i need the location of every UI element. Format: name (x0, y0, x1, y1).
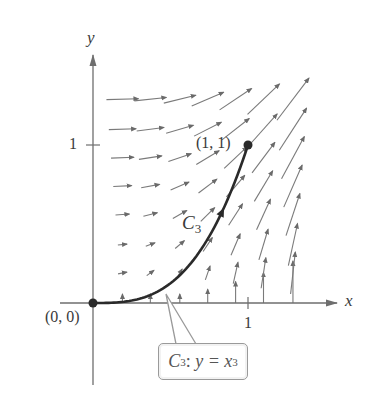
field-arrow-icon (147, 270, 154, 275)
x-axis-label: x (345, 291, 353, 311)
field-arrow-icon (231, 234, 240, 255)
field-arrow-icon (109, 129, 136, 130)
field-arrow-icon (205, 266, 210, 280)
field-arrow-icon (201, 208, 215, 222)
curve-name: C (182, 212, 195, 233)
curve-equation-callout: C3: y = x3 (158, 343, 248, 380)
origin-label: (0, 0) (45, 308, 80, 326)
y-tick-label: 1 (69, 135, 77, 153)
field-arrow-icon (141, 184, 159, 187)
field-arrow-icon (106, 99, 138, 100)
field-arrow-icon (288, 224, 297, 266)
field-arrow-icon (199, 179, 217, 193)
field-arrow-icon (279, 108, 306, 150)
field-arrow-icon (233, 262, 238, 283)
end-point-label: (1, 1) (196, 134, 231, 152)
x-tick-label: 1 (244, 314, 252, 332)
field-arrow-icon (220, 88, 252, 109)
field-arrow-icon (171, 182, 189, 190)
field-arrow-icon (118, 244, 127, 245)
field-arrow-icon (250, 114, 277, 145)
field-arrow-icon (137, 127, 164, 130)
field-arrow-icon (284, 165, 302, 207)
field-arrow-icon (196, 151, 219, 165)
callout-equation: y = x (195, 351, 232, 372)
field-arrow-icon (118, 272, 127, 274)
field-arrow-icon (282, 137, 305, 179)
field-arrow-icon (229, 204, 243, 225)
field-arrow-icon (164, 95, 196, 103)
field-arrow-icon (166, 125, 193, 133)
y-axis-label: y (87, 28, 95, 48)
field-arrow-icon (143, 213, 157, 216)
field-arrow-icon (111, 157, 134, 158)
field-arrow-icon (259, 229, 268, 260)
field-arrow-icon (257, 199, 271, 230)
field-arrow-icon (113, 186, 131, 187)
field-arrow-icon (146, 243, 155, 246)
field-arrow-icon (116, 214, 130, 215)
field-arrow-icon (134, 97, 166, 100)
field-arrow-icon (254, 171, 272, 202)
field-arrow-icon (286, 193, 300, 235)
curve-label: C3 (182, 212, 201, 237)
field-arrow-icon (277, 78, 309, 120)
callout-exponent: 3 (232, 356, 238, 368)
field-arrow-icon (192, 92, 224, 106)
vector-field-arrows (106, 78, 308, 303)
field-arrow-icon (248, 84, 280, 115)
field-arrow-icon (175, 241, 184, 249)
field-arrow-icon (139, 156, 162, 159)
callout-curve-name: C (168, 351, 180, 372)
curve-c3 (93, 145, 248, 303)
origin-point (89, 299, 98, 308)
field-arrow-icon (252, 142, 275, 173)
curve-subscript: 3 (195, 221, 202, 236)
end-point (244, 141, 253, 150)
field-arrow-icon (168, 154, 191, 162)
callout-separator: : (186, 351, 191, 372)
callout-pointer (166, 294, 196, 344)
